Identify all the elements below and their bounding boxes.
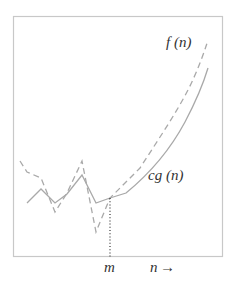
arrow-right-icon: → (160, 259, 175, 275)
plot-frame (14, 17, 223, 257)
label-m: m (104, 259, 115, 275)
omega-notation-diagram: f (n) cg (n) m n → (0, 0, 235, 287)
label-f-n: f (n) (166, 34, 191, 51)
label-cg-n: cg (n) (148, 167, 183, 184)
f-n-curve (20, 40, 208, 232)
label-n-axis: n (150, 259, 158, 275)
